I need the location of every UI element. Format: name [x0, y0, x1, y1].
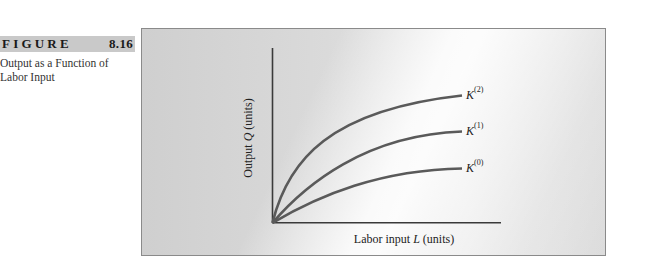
label-k0: K(0) — [466, 161, 483, 176]
curve-k1 — [273, 132, 463, 223]
x-axis-label: Labor input L (units) — [354, 232, 454, 247]
chart-plot — [0, 0, 646, 258]
y-axis-label: Output Q (units) — [241, 98, 256, 177]
label-k2: K(2) — [466, 88, 483, 103]
label-k1: K(1) — [466, 124, 483, 139]
curve-k2 — [273, 96, 463, 223]
